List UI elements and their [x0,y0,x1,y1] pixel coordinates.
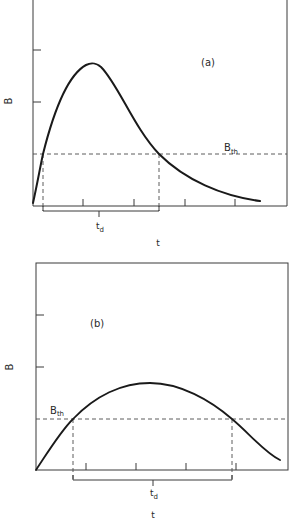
panel-b: (b) Bth B td t [4,263,288,520]
subscript: th [231,148,238,156]
panel-b-x-ticks [86,463,236,470]
panel-a-label: (a) [201,57,215,68]
panel-b-label: (b) [90,318,104,329]
panel-a-curve [33,63,260,203]
figure: (a) Bth B td t [0,0,289,525]
subscript: th [57,410,64,418]
panel-b-duration-bracket [73,475,232,486]
subscript: d [154,493,158,501]
subscript: d [100,226,104,234]
panel-a-duration-bracket [43,206,159,217]
panel-b-y-axis-label: B [4,363,15,370]
panel-b-x-axis-label: t [151,510,155,520]
panel-a-y-ticks [33,50,41,102]
panel-b-duration-label: td [150,488,158,501]
panel-b-threshold-label: Bth [50,405,64,418]
panel-a-duration-label: td [96,221,104,234]
panel-a-axes [33,0,287,206]
panel-a-y-axis-label: B [3,97,14,104]
panel-a-threshold-label: Bth [224,142,238,156]
panel-b-frame [36,263,288,470]
panel-a-x-axis-label: t [156,238,160,248]
panel-b-y-ticks [36,315,44,367]
panel-a: (a) Bth B td t [3,0,287,248]
